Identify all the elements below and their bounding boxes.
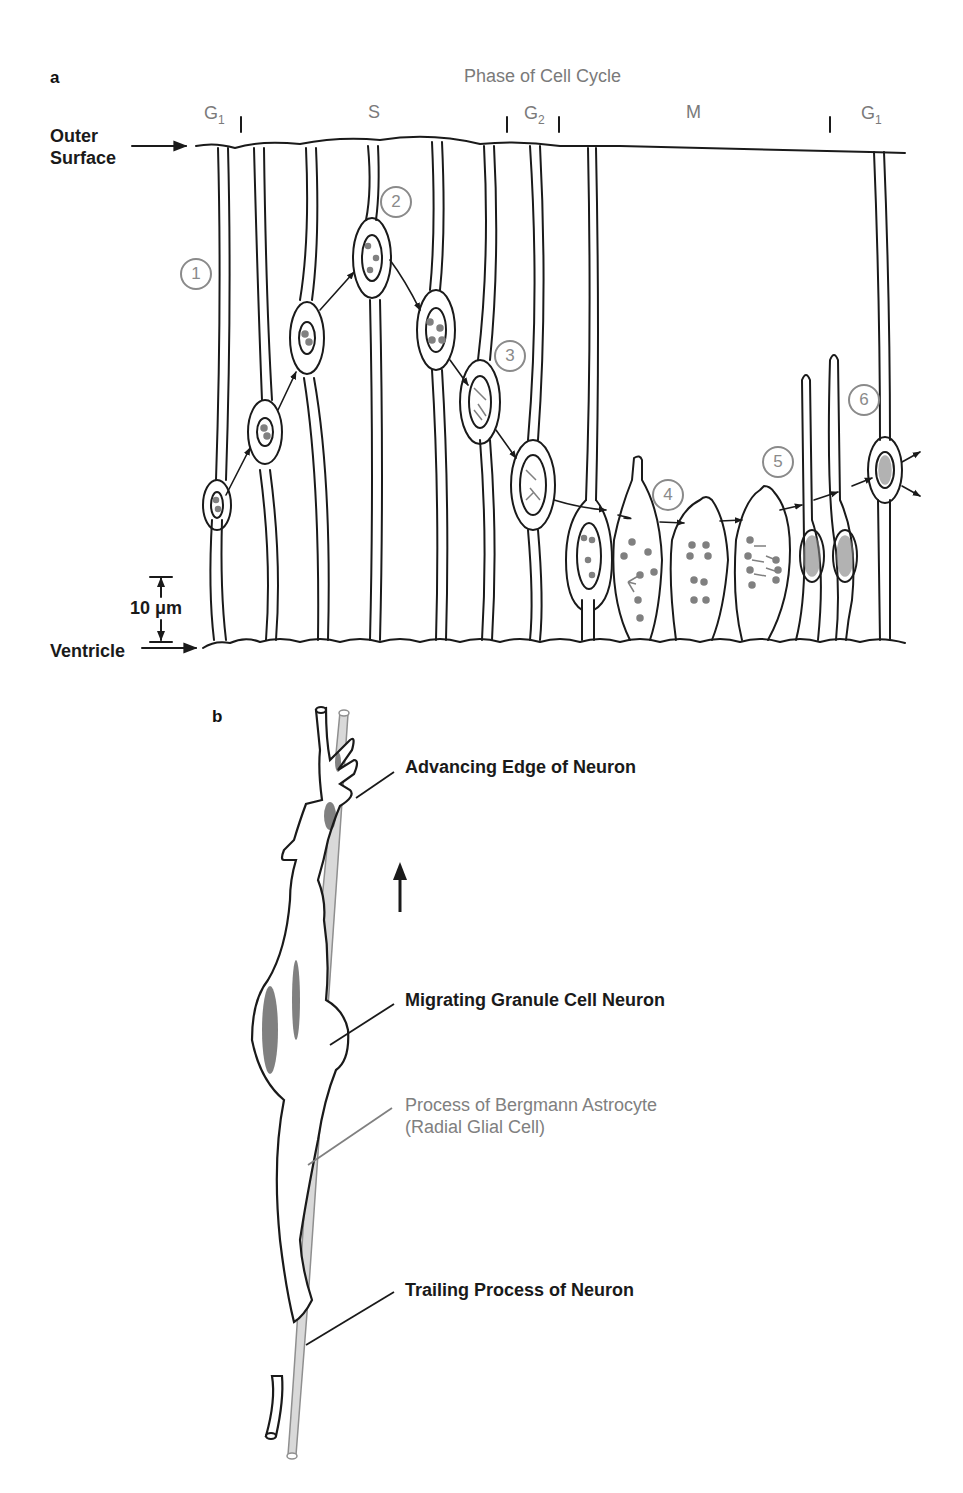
ventricle-line xyxy=(203,639,905,648)
callout-trailing-process: Trailing Process of Neuron xyxy=(405,1280,634,1301)
outer-surface-line xyxy=(196,137,905,153)
migration-arrows xyxy=(226,260,920,523)
epithelial-cells xyxy=(203,142,902,640)
phase-dividers xyxy=(241,117,830,132)
panel-b-letter: b xyxy=(212,707,222,727)
callout-advancing-edge: Advancing Edge of Neuron xyxy=(405,757,636,778)
callout-migrating-neuron: Migrating Granule Cell Neuron xyxy=(405,990,665,1011)
callout-glial-process: Process of Bergmann Astrocyte (Radial Gl… xyxy=(405,1094,657,1138)
diagram-canvas xyxy=(0,0,963,1493)
step-6-marker: 6 xyxy=(848,384,880,416)
step-4-marker: 4 xyxy=(652,479,684,511)
step-3-marker: 3 xyxy=(494,340,526,372)
step-5-marker: 5 xyxy=(762,446,794,478)
scale-bar xyxy=(150,577,172,642)
step-1-marker: 1 xyxy=(180,258,212,290)
up-arrow-icon xyxy=(393,862,407,912)
step-2-marker: 2 xyxy=(380,186,412,218)
